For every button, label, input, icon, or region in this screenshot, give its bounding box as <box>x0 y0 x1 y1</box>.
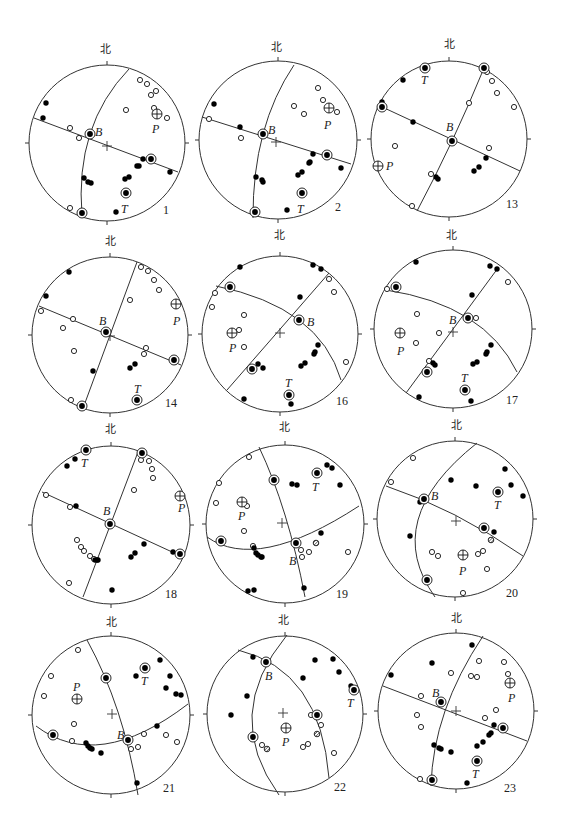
filled-point <box>89 746 94 751</box>
open-point <box>128 746 133 751</box>
axis-label-t: T <box>461 371 469 385</box>
open-point <box>326 276 331 281</box>
axis-label-b: B <box>307 315 315 329</box>
filled-point <box>72 456 77 461</box>
axis-label-p: P <box>323 118 332 132</box>
axis-label-p: P <box>72 680 81 694</box>
open-point <box>60 325 65 330</box>
open-point <box>209 304 214 309</box>
open-point <box>429 549 434 554</box>
open-point <box>38 308 43 313</box>
filled-point <box>311 351 316 356</box>
north-label: 北 <box>444 38 455 51</box>
open-point <box>144 81 149 86</box>
open-point <box>43 492 48 497</box>
open-point <box>505 671 510 676</box>
open-point <box>409 203 414 208</box>
filled-point <box>337 482 342 487</box>
filled-point <box>43 293 48 298</box>
ringed-point-core <box>449 138 455 144</box>
filled-point <box>167 169 172 174</box>
open-point <box>494 90 499 95</box>
ringed-point-core <box>500 725 506 731</box>
filled-point <box>416 394 421 399</box>
filled-point <box>173 691 178 696</box>
filled-point <box>312 657 317 662</box>
ringed-point-core <box>171 357 177 363</box>
filled-point <box>132 361 137 366</box>
axis-label-b: B <box>268 123 276 137</box>
open-point <box>410 455 415 460</box>
open-point <box>212 290 217 295</box>
open-point <box>417 776 422 781</box>
open-point <box>486 145 491 150</box>
axis-label-b: B <box>449 313 457 327</box>
filled-point <box>66 269 71 274</box>
open-point <box>141 351 146 356</box>
filled-point <box>318 266 323 271</box>
filled-point <box>315 342 320 347</box>
ringed-point-core <box>123 190 129 196</box>
open-point <box>67 205 72 210</box>
great-circle-2 <box>87 640 138 795</box>
north-label: 北 <box>274 229 285 242</box>
axis-label-b: B <box>289 554 297 568</box>
axis-label-t: T <box>494 498 502 512</box>
filled-point <box>94 557 99 562</box>
great-circle-1 <box>207 506 359 549</box>
open-point <box>48 673 53 678</box>
open-point <box>141 731 146 736</box>
ringed-point-core <box>495 489 501 495</box>
open-point <box>473 315 478 320</box>
open-point <box>298 547 303 552</box>
open-point <box>71 721 76 726</box>
open-point <box>384 286 389 291</box>
filled-point <box>250 654 255 659</box>
ringed-point-core <box>379 104 385 110</box>
open-point <box>148 92 153 97</box>
filled-point <box>140 156 145 161</box>
ringed-point-core <box>293 540 299 546</box>
north-label: 北 <box>100 43 111 56</box>
filled-point <box>432 362 437 367</box>
filled-point <box>491 722 496 727</box>
panel-number: 13 <box>506 197 518 211</box>
filled-point <box>494 266 499 271</box>
panel-number: 2 <box>335 200 341 214</box>
filled-point <box>413 259 418 264</box>
hatched-point <box>264 746 270 752</box>
filled-point <box>329 465 334 470</box>
open-point <box>301 111 306 116</box>
axis-label-t: T <box>121 202 129 216</box>
open-point <box>482 715 487 720</box>
open-point <box>238 135 243 140</box>
filled-point <box>178 692 183 697</box>
axis-label-p: P <box>458 564 467 578</box>
panel-number: 17 <box>506 393 518 407</box>
filled-point <box>43 100 48 105</box>
filled-point <box>431 742 436 747</box>
open-point <box>418 724 423 729</box>
ringed-point-core <box>429 777 435 783</box>
hatched-point <box>313 540 319 546</box>
ringed-point-core <box>324 152 330 158</box>
open-point <box>143 345 148 350</box>
filled-point <box>127 365 132 370</box>
filled-point <box>301 585 306 590</box>
stereonet-panel-17: 北BPT17 <box>370 229 536 412</box>
great-circle-2 <box>415 443 477 597</box>
panel-number: 1 <box>163 203 169 217</box>
open-point <box>123 107 128 112</box>
ringed-point-core <box>474 758 480 764</box>
ringed-point-core <box>260 131 266 137</box>
ringed-point-core <box>421 496 427 502</box>
open-point <box>146 458 151 463</box>
filled-point <box>133 673 138 678</box>
axis-label-b: B <box>446 120 454 134</box>
filled-point <box>491 529 496 534</box>
filled-point <box>211 101 216 106</box>
filled-point <box>502 466 507 471</box>
filled-point <box>109 587 114 592</box>
ringed-point-core <box>252 209 258 215</box>
open-point <box>484 566 489 571</box>
